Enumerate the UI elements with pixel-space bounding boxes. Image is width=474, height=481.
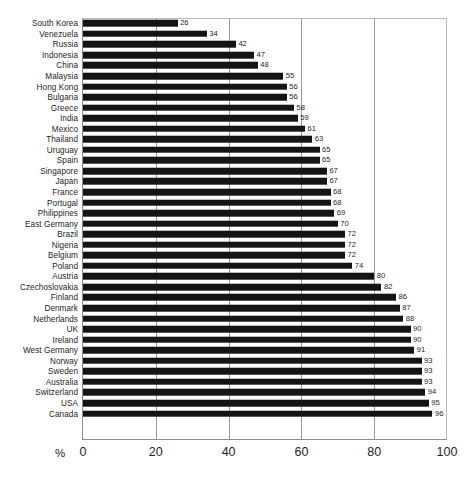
bar-value-label: 68 [331, 188, 342, 196]
bar-value-label: 93 [422, 367, 433, 375]
bar-value-label: 65 [320, 156, 331, 164]
bar-track: 69 [83, 208, 447, 219]
bar-value-label: 56 [287, 93, 298, 101]
category-label: Nigeria [52, 240, 78, 249]
bar-row: Spain65 [0, 155, 474, 166]
bar-track: 90 [83, 334, 447, 345]
bar-value-label: 93 [422, 357, 433, 365]
bar-value-label: 96 [432, 410, 443, 418]
bar-row: Norway93 [0, 356, 474, 367]
bar-row: Mexico61 [0, 123, 474, 134]
bar-value-label: 87 [400, 304, 411, 312]
bar-rows: South Korea26Venezuela34Russia42Indonesi… [0, 18, 474, 440]
bar-value-label: 26 [178, 19, 189, 27]
bar-value-label: 72 [345, 241, 356, 249]
category-label: Poland [52, 261, 78, 270]
bar-track: 74 [83, 261, 447, 272]
bar [83, 199, 331, 206]
category-label: France [52, 188, 78, 197]
bar-value-label: 67 [327, 167, 338, 175]
bar-value-label: 86 [396, 293, 407, 301]
bar-row: China48 [0, 60, 474, 71]
bar-row: Finland86 [0, 292, 474, 303]
bar-row: India59 [0, 113, 474, 124]
bar [83, 347, 414, 354]
bar [83, 157, 320, 164]
bar-row: Thailand63 [0, 134, 474, 145]
bar-track: 80 [83, 271, 447, 282]
category-label: Uruguay [47, 145, 78, 154]
category-label: Japan [55, 177, 78, 186]
bar-value-label: 74 [352, 262, 363, 270]
bar-track: 68 [83, 197, 447, 208]
bar-track: 65 [83, 155, 447, 166]
bar [83, 178, 327, 185]
bar [83, 357, 422, 364]
bar-track: 48 [83, 60, 447, 71]
category-label: Denmark [44, 304, 78, 313]
bar-row: Venezuela34 [0, 29, 474, 40]
category-label: Belgium [48, 251, 78, 260]
bar-track: 93 [83, 377, 447, 388]
category-label: Bulgaria [48, 93, 78, 102]
bar [83, 241, 345, 248]
bar-track: 70 [83, 218, 447, 229]
category-label: South Korea [32, 19, 78, 28]
bar-value-label: 70 [338, 220, 349, 228]
bar-row: Portugal68 [0, 197, 474, 208]
category-label: Finland [51, 293, 78, 302]
bar-row: Austria80 [0, 271, 474, 282]
category-label: East Germany [25, 219, 78, 228]
bar-track: 94 [83, 387, 447, 398]
bar [83, 379, 422, 386]
category-label: USA [61, 398, 78, 407]
bar-track: 88 [83, 313, 447, 324]
bar-value-label: 93 [422, 378, 433, 386]
category-label: Austria [52, 272, 78, 281]
category-label: Ireland [53, 335, 78, 344]
bar-track: 58 [83, 102, 447, 113]
bar [83, 231, 345, 238]
bar-value-label: 69 [334, 209, 345, 217]
bar-track: 42 [83, 39, 447, 50]
bar-track: 72 [83, 250, 447, 261]
category-label: Russia [53, 40, 78, 49]
category-label: Thailand [46, 135, 78, 144]
category-label: Australia [46, 377, 78, 386]
x-tick-label-40: 40 [222, 445, 236, 459]
category-label: Czechoslovakia [20, 282, 78, 291]
bar [83, 62, 258, 69]
x-axis-unit-label: % [55, 447, 65, 460]
bar-row: Poland74 [0, 261, 474, 272]
category-label: Malaysia [45, 72, 78, 81]
bar-row: Japan67 [0, 176, 474, 187]
bar-value-label: 34 [207, 30, 218, 38]
bar-track: 61 [83, 123, 447, 134]
bar-track: 67 [83, 166, 447, 177]
x-tick-label-60: 60 [294, 445, 308, 459]
bar [83, 83, 287, 90]
bar-track: 56 [83, 92, 447, 103]
bar-row: Switzerland94 [0, 387, 474, 398]
bar [83, 94, 287, 101]
bar [83, 168, 327, 175]
bar [83, 220, 338, 227]
bar [83, 294, 396, 301]
bar-value-label: 91 [414, 346, 425, 354]
bar-value-label: 95 [429, 399, 440, 407]
bar-row: Australia93 [0, 377, 474, 388]
bar-track: 59 [83, 113, 447, 124]
bar-row: Brazil72 [0, 229, 474, 240]
bar-value-label: 61 [305, 125, 316, 133]
bar-value-label: 67 [327, 177, 338, 185]
bar-row: Belgium72 [0, 250, 474, 261]
bar-row: Greece58 [0, 102, 474, 113]
bar-value-label: 68 [331, 199, 342, 207]
bar-row: Ireland90 [0, 334, 474, 345]
bar-value-label: 58 [294, 104, 305, 112]
bar-track: 87 [83, 303, 447, 314]
bar [83, 273, 374, 280]
bar-track: 96 [83, 408, 447, 419]
category-label: Sweden [48, 367, 78, 376]
bar-track: 82 [83, 282, 447, 293]
